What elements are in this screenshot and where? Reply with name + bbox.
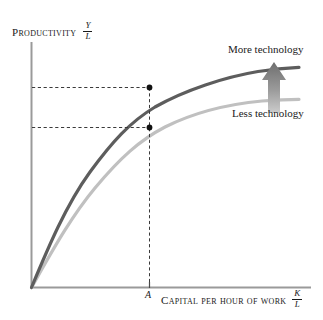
- y-axis-title-text: Productivity: [12, 27, 76, 38]
- less-technology-label: Less technology: [232, 108, 304, 119]
- point-marker-more-technology: [147, 85, 153, 91]
- y-axis-fraction: Y L: [83, 21, 92, 42]
- point-marker-less-technology: [147, 125, 153, 131]
- x-axis-title: Capital per hour of work K L: [161, 290, 302, 311]
- x-axis-fraction-numerator: K: [292, 289, 302, 298]
- x-axis-fraction: K L: [292, 289, 302, 310]
- more-technology-label: More technology: [228, 44, 303, 55]
- less-technology-curve: [32, 99, 300, 287]
- y-axis-fraction-denominator: L: [83, 32, 92, 41]
- y-axis-fraction-numerator: Y: [83, 21, 92, 30]
- x-axis-title-text: Capital per hour of work: [161, 295, 286, 306]
- x-axis-fraction-denominator: L: [293, 300, 302, 309]
- y-axis-title: Productivity Y L: [12, 22, 92, 43]
- productivity-technology-chart: Productivity Y L Capital per hour of wor…: [0, 0, 323, 320]
- x-axis-tick-label-a: A: [145, 290, 151, 300]
